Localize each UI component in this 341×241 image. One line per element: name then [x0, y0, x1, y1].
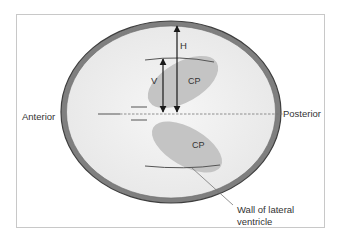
- interior-region: [67, 26, 276, 198]
- label-h: H: [180, 41, 187, 51]
- label-anterior: Anterior: [22, 112, 55, 122]
- label-v: V: [151, 76, 157, 86]
- label-cp-lower: CP: [192, 141, 205, 150]
- label-cp-upper: CP: [188, 77, 201, 86]
- label-posterior: Posterior: [283, 109, 321, 119]
- label-wall-of-lateral-ventricle: Wall of lateral ventricle: [237, 204, 317, 228]
